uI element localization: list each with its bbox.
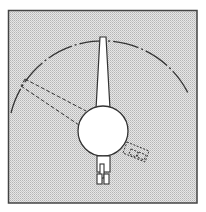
diagram-canvas — [0, 0, 206, 212]
central-hub — [78, 106, 128, 156]
rear-unit — [97, 156, 110, 184]
